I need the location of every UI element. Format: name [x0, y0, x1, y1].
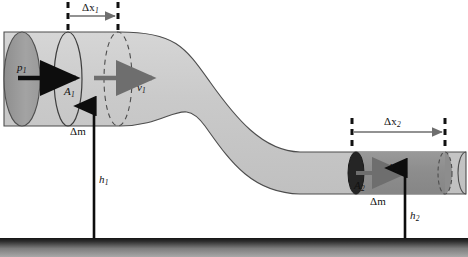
label-area-2: A2	[354, 180, 365, 191]
fluid-flow-diagram: p1 A1 v1 Δx1 Δm h1 A2 v2 Δx2 Δm h2	[0, 0, 468, 257]
label-velocity-2: v2	[390, 160, 399, 171]
label-height-1: h1	[99, 174, 109, 185]
label-delta-x-1: Δx1	[82, 2, 99, 13]
label-delta-m-2: Δm	[370, 196, 386, 207]
label-area-1: A1	[64, 86, 75, 97]
label-pressure-1: p1	[17, 62, 27, 73]
ground-plane	[0, 238, 468, 257]
label-height-2: h2	[410, 210, 420, 221]
label-velocity-1: v1	[137, 82, 146, 93]
label-delta-x-2: Δx2	[384, 116, 401, 127]
label-delta-m-1: Δm	[70, 126, 86, 137]
